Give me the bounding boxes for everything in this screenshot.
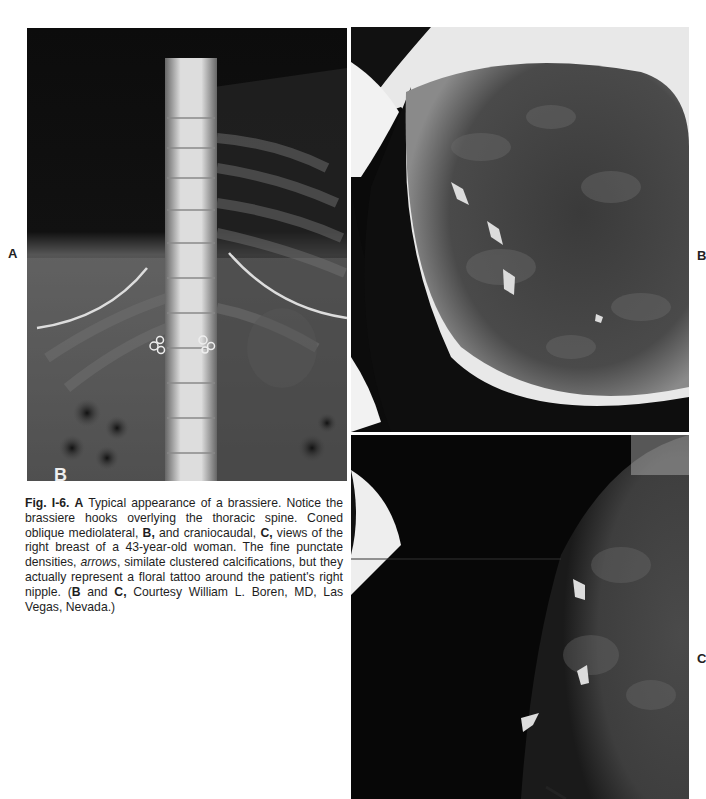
mammogram-image-c [351,435,689,799]
caption-arrows-term: arrows [80,555,117,569]
mammogram-panel-b [351,27,689,432]
caption-ref-c: C, [114,585,126,599]
corner-mark: B [54,465,67,481]
panel-label-c: C [697,651,706,666]
caption-text: and [81,585,115,599]
mammogram-image-b [351,27,689,432]
caption-ref-c: C, [260,526,272,540]
mammogram-panel-c [351,435,689,799]
caption-ref-a: A [74,496,83,510]
caption-text: and craniocaudal, [155,526,261,540]
spine-xray-image: B [27,28,347,481]
caption-ref-b: B, [143,526,155,540]
figure-caption: Fig. I-6. A Typical appearance of a bras… [25,496,343,614]
radiograph-panel-a: B [27,28,347,481]
panel-label-a: A [8,246,17,261]
panel-label-b: B [697,248,706,263]
caption-ref-b: B [72,585,81,599]
figure-number: Fig. I-6. [25,496,69,510]
